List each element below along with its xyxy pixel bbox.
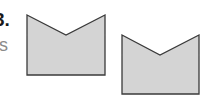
notched-shape-2: [122, 35, 199, 94]
shapes-figure: [0, 0, 213, 107]
notched-shape-1: [27, 15, 105, 75]
